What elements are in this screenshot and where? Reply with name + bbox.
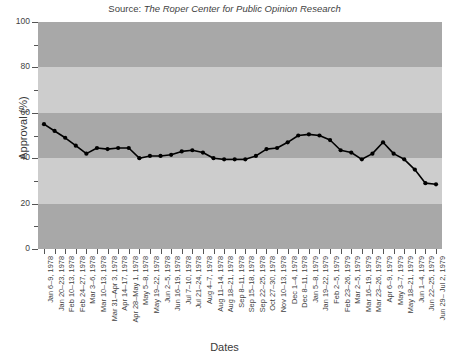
data-point-marker	[180, 149, 184, 153]
x-axis-tick	[362, 249, 363, 254]
x-axis-tick	[298, 249, 299, 254]
data-point-marker	[264, 147, 268, 151]
x-axis-tick-label: Sep 22–25, 1978	[259, 256, 266, 312]
series-line	[44, 124, 436, 184]
x-axis-tick-label: Jun 29– Jul 2, 1979	[439, 256, 446, 321]
data-point-marker	[52, 129, 56, 133]
x-axis-tick	[372, 249, 373, 254]
x-axis-tick-label: Jun 22–25, 1979	[428, 256, 435, 311]
x-axis-tick-label: Dec 1–4, 1978	[291, 256, 298, 304]
source-organization: The Roper Center for Public Opinion Rese…	[144, 3, 341, 14]
x-axis-tick-label: Jan 6–9, 1978	[47, 256, 54, 303]
x-axis-tick	[288, 249, 289, 254]
x-axis-tick	[235, 249, 236, 254]
data-point-marker	[74, 144, 78, 148]
y-axis-title: Approval (%)	[17, 53, 29, 203]
data-point-marker	[95, 146, 99, 150]
x-axis-tick	[415, 249, 416, 254]
x-axis-tick-label: Apr 28–May 1, 1978	[132, 256, 139, 323]
data-point-marker	[275, 146, 279, 150]
x-axis-tick-label: Mar 3–6, 1978	[89, 256, 96, 304]
x-axis-tick-label: Mar 10–13, 1978	[100, 256, 107, 312]
x-axis-tick-label: Sep 8–11, 1978	[238, 256, 245, 308]
x-axis-tick-label: Oct 27–30, 1978	[269, 256, 276, 311]
x-axis-tick	[436, 249, 437, 254]
data-series-approval	[38, 22, 442, 249]
data-point-marker	[360, 157, 364, 161]
data-point-marker	[307, 132, 311, 136]
x-axis-tick	[256, 249, 257, 254]
data-point-marker	[286, 140, 290, 144]
x-axis-tick-label: Jun 2–5, 1978	[164, 256, 171, 303]
x-axis-tick	[330, 249, 331, 254]
x-axis-tick	[118, 249, 119, 254]
x-axis-tick	[76, 249, 77, 254]
x-axis-tick-label: May 5–8, 1978	[142, 256, 149, 305]
data-point-marker	[328, 138, 332, 142]
x-axis-tick-label: Jan 5–8, 1979	[312, 256, 319, 303]
x-axis-tick-label: Mar 2–5, 1979	[354, 256, 361, 304]
x-axis-tick	[245, 249, 246, 254]
x-axis-tick	[161, 249, 162, 254]
x-axis-tick	[309, 249, 310, 254]
data-point-marker	[84, 152, 88, 156]
x-axis-tick	[182, 249, 183, 254]
x-axis-tick-label: Jul 7–10, 1978	[185, 256, 192, 305]
data-point-marker	[434, 182, 438, 186]
data-point-marker	[42, 122, 46, 126]
x-axis-title: Dates	[0, 341, 449, 353]
x-axis-tick	[203, 249, 204, 254]
x-axis-tick-label: Jun 16–19, 1978	[174, 256, 181, 311]
x-axis-tick-label: Feb 23–26, 1979	[344, 256, 351, 312]
x-axis-tick	[319, 249, 320, 254]
data-point-marker	[317, 133, 321, 137]
data-point-marker	[190, 148, 194, 152]
x-axis-tick	[171, 249, 172, 254]
x-axis-tick-label: Aug 18–21, 1978	[227, 256, 234, 312]
x-axis-tick	[44, 249, 45, 254]
x-axis-tick	[266, 249, 267, 254]
data-point-marker	[402, 157, 406, 161]
data-point-marker	[339, 148, 343, 152]
data-point-marker	[116, 146, 120, 150]
data-point-marker	[137, 156, 141, 160]
x-axis-tick-label: Jan 19–22, 1979	[322, 256, 329, 311]
x-axis-tick-label: Mar 16–19, 1979	[365, 256, 372, 312]
data-point-marker	[201, 150, 205, 154]
x-axis-tick	[341, 249, 342, 254]
x-axis-tick	[351, 249, 352, 254]
data-point-marker	[222, 157, 226, 161]
x-axis-tick	[192, 249, 193, 254]
x-axis-tick	[277, 249, 278, 254]
data-point-marker	[105, 147, 109, 151]
x-axis-tick-label: Nov 10–13, 1978	[280, 256, 287, 312]
data-point-marker	[413, 167, 417, 171]
data-point-marker	[254, 154, 258, 158]
approval-line-chart: Source: The Roper Center for Public Opin…	[0, 0, 449, 362]
x-axis-tick	[55, 249, 56, 254]
x-axis-tick-label: May 3–7, 1979	[397, 256, 404, 305]
data-point-marker	[148, 154, 152, 158]
y-axis-tick-label: 20	[21, 199, 30, 208]
x-axis-tick	[129, 249, 130, 254]
x-axis-tick-label: Apr 6–9, 1979	[386, 256, 393, 302]
chart-source-note: Source: The Roper Center for Public Opin…	[0, 3, 449, 14]
data-point-marker	[243, 157, 247, 161]
x-axis-tick	[404, 249, 405, 254]
data-point-marker	[127, 146, 131, 150]
x-axis-tick	[108, 249, 109, 254]
y-axis-tick-label: 80	[21, 62, 30, 71]
x-axis-tick	[65, 249, 66, 254]
data-point-marker	[423, 181, 427, 185]
x-axis-tick-label: Jun 1–4, 1979	[418, 256, 425, 303]
source-prefix: Source:	[108, 3, 143, 14]
x-axis-tick	[224, 249, 225, 254]
x-axis-tick-label: Mar 31–Apr 3, 1978	[111, 256, 118, 321]
y-axis-tick-label: 40	[21, 153, 30, 162]
x-axis-tick	[97, 249, 98, 254]
x-axis-tick	[150, 249, 151, 254]
x-axis-tick-label: Mar 23–26, 1979	[375, 256, 382, 312]
data-point-marker	[63, 136, 67, 140]
data-point-marker	[169, 153, 173, 157]
x-axis-tick	[214, 249, 215, 254]
